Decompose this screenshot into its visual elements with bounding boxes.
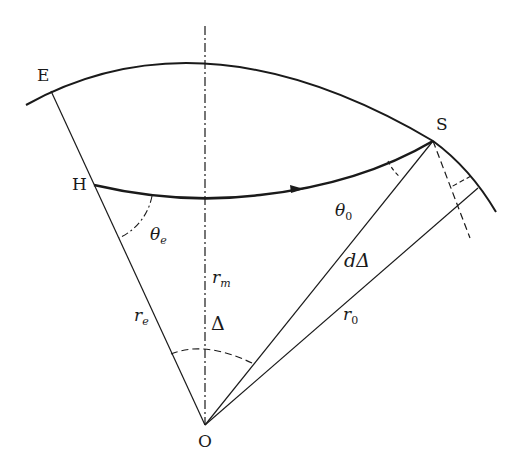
label-r-e: re bbox=[134, 307, 149, 324]
theta-0-subscript: 0 bbox=[345, 210, 352, 223]
ray-geometry-diagram: E H S O θe θ0 rm re Δ dΔ r0 bbox=[0, 0, 514, 467]
point-label-s: S bbox=[436, 116, 448, 133]
radius-line-os bbox=[205, 141, 433, 425]
theta-0-symbol: θ bbox=[335, 200, 345, 220]
r-0-subscript: 0 bbox=[351, 314, 358, 327]
theta-e-symbol: θ bbox=[150, 224, 160, 244]
r-m-subscript: m bbox=[220, 277, 230, 290]
right-angle-marker bbox=[451, 176, 471, 187]
r-e-subscript: e bbox=[142, 315, 149, 328]
r-e-symbol: r bbox=[134, 305, 142, 325]
r-m-symbol: r bbox=[212, 267, 220, 287]
diagram-svg bbox=[0, 0, 514, 467]
theta-e-subscript: e bbox=[160, 234, 167, 247]
ray-path bbox=[94, 141, 433, 198]
label-theta-0: θ0 bbox=[335, 202, 352, 219]
delta-angle-arc bbox=[171, 349, 254, 364]
ray-arrow-icon bbox=[290, 185, 304, 193]
point-label-o: O bbox=[198, 433, 212, 450]
r-0-symbol: r bbox=[343, 304, 351, 324]
label-delta: Δ bbox=[211, 314, 225, 333]
theta-e-angle-arc bbox=[119, 196, 152, 238]
label-d-delta: dΔ bbox=[344, 251, 370, 270]
label-r-m: rm bbox=[212, 269, 231, 286]
point-label-e: E bbox=[37, 67, 49, 84]
label-r-0: r0 bbox=[343, 306, 358, 323]
radius-line-r0 bbox=[205, 188, 478, 425]
point-label-h: H bbox=[72, 176, 87, 193]
label-theta-e: θe bbox=[150, 226, 167, 243]
radius-line-re bbox=[51, 91, 205, 425]
